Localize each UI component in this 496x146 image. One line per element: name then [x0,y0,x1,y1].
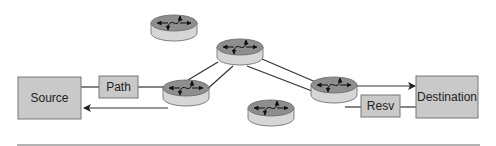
router-top-middle-icon [217,39,263,65]
destination-label: Destination [417,90,477,104]
rsvp-diagram: Source Path Resv Destination [0,0,496,146]
router-bottom-icon [248,100,294,126]
router-source-edge-icon [163,80,209,106]
path-label: Path [106,80,131,94]
source-label: Source [30,91,68,105]
resv-message: Resv [361,95,400,117]
path-message: Path [99,76,138,98]
router-destination-edge-icon [311,77,357,103]
source-node: Source [18,77,81,119]
link-router-a-top-1 [188,62,218,80]
resv-label: Resv [367,99,394,113]
link-top-router-b-1 [255,56,318,83]
link-top-router-b-2 [247,66,312,91]
router-top-left-icon [151,15,197,41]
destination-node: Destination [416,76,478,118]
